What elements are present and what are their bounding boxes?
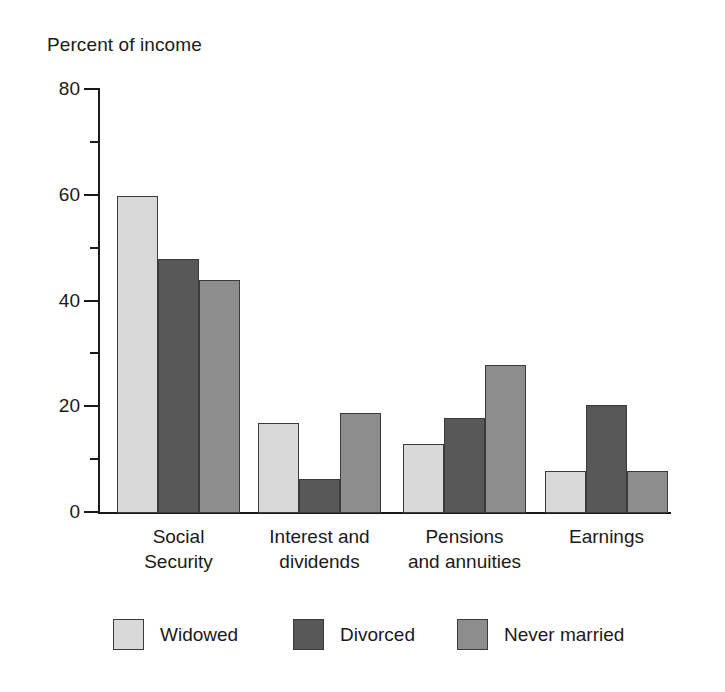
bar [117,196,158,513]
y-tick-label: 0 [36,502,80,521]
legend-item[interactable]: Divorced [293,612,415,656]
bar [258,423,299,513]
legend-item[interactable]: Widowed [113,612,238,656]
bar-group [117,89,240,513]
bar [444,418,485,513]
y-axis-tick-labels: 806040200 [28,0,80,692]
bar [627,471,668,513]
bar [403,444,444,513]
legend-label: Widowed [160,625,238,644]
legend-label: Divorced [340,625,415,644]
bar [340,413,381,513]
bar [199,280,240,513]
bar-chart: Percent of income 806040200 Social Secur… [0,0,725,692]
bar [545,471,586,513]
category-label: Earnings [517,524,697,549]
bar-group [403,89,526,513]
legend-swatch [457,619,488,650]
bar [158,259,199,513]
y-tick-label: 20 [36,396,80,415]
legend-item[interactable]: Never married [457,612,624,656]
bar-group [545,89,668,513]
bar-group [258,89,381,513]
bar [485,365,526,513]
y-tick-label: 40 [36,291,80,310]
chart-legend: WidowedDivorcedNever married [0,612,725,662]
y-tick-label: 80 [36,79,80,98]
plot-area [98,89,670,513]
legend-swatch [113,619,144,650]
legend-swatch [293,619,324,650]
y-tick-label: 60 [36,185,80,204]
bar [586,405,627,513]
bar [299,479,340,513]
legend-label: Never married [504,625,624,644]
